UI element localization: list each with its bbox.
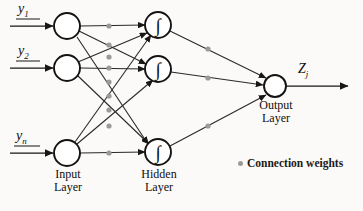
output-layer-label: Output Layer xyxy=(248,99,304,124)
edge-h2-out xyxy=(171,72,263,85)
input-label-underlines xyxy=(14,19,40,146)
hidden-to-output-edges xyxy=(170,31,266,146)
weight-dot xyxy=(106,54,111,59)
connection-weight-dots-input-side xyxy=(106,23,111,155)
input-layer-label-line2: Layer xyxy=(42,181,94,194)
input-label-y1: y1 xyxy=(18,2,29,19)
edge-yn-h3 xyxy=(80,152,145,153)
input-layer-nodes xyxy=(54,13,80,166)
edge-y2-h1 xyxy=(78,33,147,62)
neural-network-diagram: ∫ ∫ ∫ y1 y2 yn Zj Input Layer Hidden Lay… xyxy=(0,0,363,211)
input-node-y2 xyxy=(54,55,80,81)
input-label-y2: y2 xyxy=(18,44,29,61)
hidden-layer-label-line1: Hidden xyxy=(130,168,188,181)
weight-dot xyxy=(106,42,111,47)
edge-y2-h2 xyxy=(80,68,145,69)
input-node-y1 xyxy=(54,13,80,39)
output-layer-label-line1: Output xyxy=(248,99,304,112)
legend: Connection weights xyxy=(238,157,343,169)
hidden-layer-label-line2: Layer xyxy=(130,181,188,194)
output-layer-label-line2: Layer xyxy=(248,112,304,125)
edge-h1-out xyxy=(170,31,266,78)
input-layer-label-line1: Input xyxy=(42,168,94,181)
input-label-yn: yn xyxy=(16,129,27,146)
weight-dot xyxy=(106,107,111,112)
edge-y1-h1 xyxy=(80,25,145,26)
edge-y1-h3 xyxy=(77,37,148,144)
weight-dot xyxy=(205,46,210,51)
input-to-hidden-edges xyxy=(75,25,153,153)
input-layer-label: Input Layer xyxy=(42,168,94,193)
weight-dot xyxy=(106,93,111,98)
weight-dot xyxy=(106,23,111,28)
weight-dot xyxy=(205,123,210,128)
weight-dot xyxy=(106,65,111,70)
legend-label: Connection weights xyxy=(247,157,343,169)
connection-weight-dots-output-side xyxy=(205,46,210,128)
hidden-layer-label: Hidden Layer xyxy=(130,168,188,193)
output-node-zj xyxy=(264,75,286,97)
weight-dot xyxy=(205,75,210,80)
weight-dot xyxy=(106,123,111,128)
output-label-zj: Zj xyxy=(298,62,308,79)
weight-dot xyxy=(106,79,111,84)
weight-dot xyxy=(106,150,111,155)
connection-weight-dot-icon xyxy=(238,161,243,166)
input-node-yn xyxy=(54,140,80,166)
